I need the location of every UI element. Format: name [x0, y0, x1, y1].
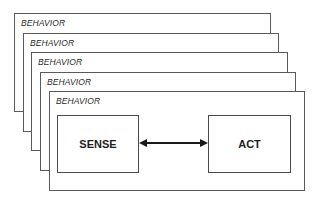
frame-label: BEHAVIOR: [21, 18, 65, 28]
sense-box: SENSE: [57, 115, 139, 173]
act-box: ACT: [208, 115, 291, 173]
frame-label: BEHAVIOR: [30, 38, 74, 48]
sense-label: SENSE: [79, 138, 116, 150]
frame-label: BEHAVIOR: [38, 57, 82, 67]
bidirectional-arrow-icon: [139, 137, 208, 149]
act-label: ACT: [238, 138, 261, 150]
frame-label: BEHAVIOR: [56, 96, 100, 106]
frame-label: BEHAVIOR: [47, 77, 91, 87]
